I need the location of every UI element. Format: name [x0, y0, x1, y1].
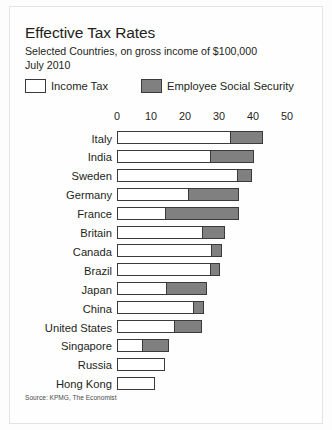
category-label-canada: Canada — [73, 246, 112, 258]
stacked-bar — [117, 244, 222, 257]
x-tick-40: 40 — [247, 110, 259, 122]
stacked-bar — [117, 358, 165, 371]
bar-row: Hong Kong — [0, 376, 332, 393]
stacked-bar — [117, 320, 202, 333]
bar-segment-social-security — [230, 132, 262, 143]
bar-row: Germany — [0, 187, 332, 204]
category-label-china: China — [83, 303, 112, 315]
bar-segment-income-tax — [118, 340, 142, 351]
category-label-singapore: Singapore — [61, 340, 112, 352]
bar-segment-social-security — [174, 321, 201, 332]
bar-segment-social-security — [202, 227, 224, 238]
bar-segment-income-tax — [118, 151, 210, 162]
bar-segment-income-tax — [118, 283, 166, 294]
bar-row: Sweden — [0, 168, 332, 185]
bar-segment-income-tax — [118, 378, 154, 389]
bar-segment-income-tax — [118, 208, 165, 219]
bar-segment-income-tax — [118, 321, 174, 332]
category-label-sweden: Sweden — [72, 170, 112, 182]
bar-segment-social-security — [188, 189, 238, 200]
bar-segment-income-tax — [118, 227, 202, 238]
x-tick-30: 30 — [213, 110, 225, 122]
stacked-bar — [117, 282, 207, 295]
category-label-britain: Britain — [80, 227, 112, 239]
stacked-bar — [117, 131, 263, 144]
category-label-germany: Germany — [66, 189, 112, 201]
category-label-russia: Russia — [78, 359, 112, 371]
bar-segment-income-tax — [118, 264, 210, 275]
bar-row: Japan — [0, 281, 332, 298]
bar-row: Canada — [0, 243, 332, 260]
stacked-bar — [117, 263, 220, 276]
x-tick-0: 0 — [114, 110, 120, 122]
category-label-france: France — [77, 208, 112, 220]
bar-segment-income-tax — [118, 359, 164, 370]
bar-row: France — [0, 206, 332, 223]
bar-row: Russia — [0, 357, 332, 374]
bar-segment-social-security — [210, 264, 219, 275]
stacked-bar — [117, 301, 204, 314]
category-label-japan: Japan — [82, 284, 112, 296]
stacked-bar — [117, 207, 239, 220]
source-note: Source: KPMG, The Economist — [25, 394, 117, 401]
stacked-bar — [117, 377, 155, 390]
bar-segment-income-tax — [118, 170, 237, 181]
bar-row: India — [0, 149, 332, 166]
category-label-india: India — [88, 151, 112, 163]
bar-row: Italy — [0, 130, 332, 147]
category-label-united-states: United States — [45, 322, 112, 334]
bar-segment-social-security — [166, 283, 206, 294]
bar-segment-social-security — [165, 208, 239, 219]
x-tick-10: 10 — [145, 110, 157, 122]
category-label-hong-kong: Hong Kong — [56, 378, 112, 390]
bar-segment-social-security — [211, 245, 220, 256]
stacked-bar — [117, 188, 239, 201]
bar-row: Singapore — [0, 338, 332, 355]
stacked-bar — [117, 339, 169, 352]
bar-row: Brazil — [0, 262, 332, 279]
bar-segment-social-security — [210, 151, 253, 162]
bar-segment-social-security — [193, 302, 203, 313]
bar-segment-income-tax — [118, 189, 188, 200]
bar-row: Britain — [0, 225, 332, 242]
x-tick-50: 50 — [281, 110, 293, 122]
bar-segment-income-tax — [118, 132, 230, 143]
category-label-brazil: Brazil — [84, 265, 112, 277]
bar-row: United States — [0, 319, 332, 336]
bar-segment-income-tax — [118, 302, 193, 313]
bar-segment-social-security — [237, 170, 251, 181]
stacked-bar — [117, 169, 252, 182]
bar-segment-income-tax — [118, 245, 211, 256]
x-tick-20: 20 — [179, 110, 191, 122]
plot-area: 01020304050 ItalyIndiaSwedenGermanyFranc… — [0, 0, 332, 430]
chart-figure: Effective Tax Rates Selected Countries, … — [0, 0, 332, 430]
category-label-italy: Italy — [91, 133, 112, 145]
stacked-bar — [117, 226, 225, 239]
stacked-bar — [117, 150, 254, 163]
bar-segment-social-security — [142, 340, 168, 351]
bar-row: China — [0, 300, 332, 317]
